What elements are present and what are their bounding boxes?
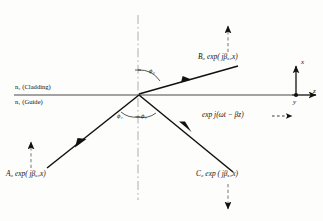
propagation-label: exp j(ωt − βz) [202, 111, 244, 118]
x-axis-label: x [301, 59, 304, 66]
reflected-wave-label: C₀ exp ( jβₓ₂x) [196, 170, 238, 177]
reflected-ray [139, 95, 233, 172]
incident-wave-label: A₀ exp( jβₓ₂x) [6, 170, 46, 177]
transmitted-ray-arrowhead [181, 76, 192, 83]
phi1-left-label: ϕ₁ [117, 113, 123, 120]
guide-label: n₁ (Guide) [15, 99, 43, 106]
phi1-left-angle-arc [121, 112, 138, 117]
transmitted-wave-label: B₀ exp( jβₓ₂x) [198, 53, 238, 60]
y-axis-label: y [293, 99, 296, 106]
incident-ray-arrowhead [75, 138, 87, 148]
z-axis-label: z [313, 88, 316, 95]
cladding-label: n₂ (Cladding) [15, 84, 51, 91]
reflected-ray-arrowhead [179, 122, 192, 133]
origin-dot-icon [294, 93, 298, 97]
diagram-canvas [0, 0, 323, 221]
ray-diagram-figure: n₂ (Cladding) n₁ (Guide) ϕ₂ ϕ₁ ϕ₁ B₀ exp… [0, 0, 323, 221]
phi2-label: ϕ₂ [149, 68, 155, 75]
incident-ray [47, 95, 139, 168]
phi1-right-label: ϕ₁ [141, 113, 147, 120]
